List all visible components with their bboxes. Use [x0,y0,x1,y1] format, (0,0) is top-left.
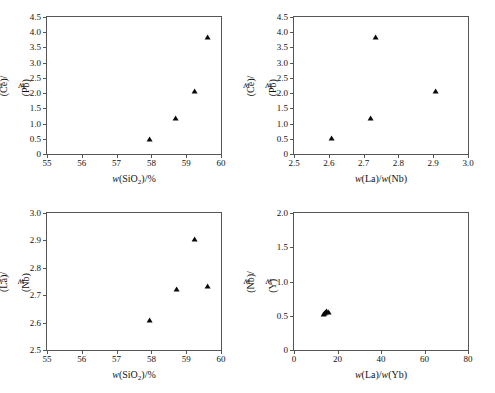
x-tick-label: 2.7 [358,159,369,168]
y-tick-label: 1.0 [277,119,288,128]
panel-top-right: 00.51.01.52.02.53.03.54.04.52.52.62.72.8… [247,0,495,196]
x-tick-label: 57 [112,159,121,168]
y-axis-label-bottom-right: w(Nb)/w(Y) [249,212,263,351]
y-tick-label: 3.5 [30,43,41,52]
y-tick-mark [290,93,294,94]
y-tick-mark [290,32,294,33]
x-tick-label: 55 [43,355,52,364]
y-tick-mark [43,323,47,324]
plot-area-bottom-left: 2.52.62.72.82.93.0555657585960 [46,212,222,351]
y-tick-label: 0.5 [30,134,41,143]
y-tick-mark [43,47,47,48]
y-tick-mark [43,63,47,64]
x-tick-label: 60 [217,355,226,364]
y-tick-label: 2.5 [277,73,288,82]
data-point-marker [328,135,334,140]
y-tick-mark [43,139,47,140]
y-tick-mark [43,240,47,241]
panel-bottom-right: 00.51.01.52.0020406080 w(La)/w(Yb) w(Nb)… [247,196,495,393]
data-point-marker [146,136,152,141]
x-tick-label: 58 [147,355,156,364]
y-tick-label: 0 [284,346,289,355]
panel-top-left: 00.51.01.52.02.53.03.54.04.5555657585960… [0,0,247,196]
y-tick-label: 0.5 [277,134,288,143]
y-tick-mark [290,17,294,18]
x-tick-label: 56 [77,159,86,168]
x-tick-label: 59 [182,159,191,168]
y-tick-label: 2.9 [30,236,41,245]
x-tick-label: 59 [182,355,191,364]
y-axis-label-bottom-left: w(La)/w(Nb) [2,212,16,351]
y-tick-label: 0 [284,150,289,159]
y-tick-mark [43,124,47,125]
y-tick-label: 2.0 [277,209,288,218]
x-axis-label-top-right: w(La)/w(Nb) [293,173,469,184]
y-tick-label: 4.5 [277,13,288,22]
plot-area-top-left: 00.51.01.52.02.53.03.54.04.5555657585960 [46,16,222,155]
x-tick-label: 2.6 [323,159,334,168]
y-tick-label: 3.0 [30,209,41,218]
data-point-marker [368,115,374,120]
y-tick-mark [43,268,47,269]
y-tick-label: 1.0 [30,119,41,128]
scatter-plot-figure: 00.51.01.52.02.53.03.54.04.5555657585960… [0,0,495,393]
y-tick-mark [290,139,294,140]
data-point-marker [325,309,331,314]
data-point-marker [372,34,378,39]
data-point-marker [204,283,210,288]
y-tick-label: 2.6 [30,318,41,327]
x-tick-label: 40 [377,355,386,364]
y-axis-label-top-right: w(Ce)/w(Pb) [249,16,263,155]
data-point-marker [173,287,179,292]
y-tick-label: 0.5 [277,311,288,320]
y-tick-mark [290,63,294,64]
x-axis-label-top-left: w(SiO2)/% [46,173,222,186]
data-point-marker [191,236,197,241]
panel-bottom-left: 2.52.62.72.82.93.0555657585960 w(SiO2)/%… [0,196,247,393]
y-tick-label: 2.0 [30,89,41,98]
x-tick-label: 0 [292,355,297,364]
x-tick-label: 2.5 [288,159,299,168]
y-axis-label-top-left: w(Ce)/w(Pb) [2,16,16,155]
x-tick-label: 80 [464,355,473,364]
x-tick-label: 60 [217,159,226,168]
y-tick-label: 1.5 [277,104,288,113]
x-tick-label: 57 [112,355,121,364]
y-tick-label: 4.0 [30,28,41,37]
y-tick-label: 0 [37,150,42,159]
data-point-marker [146,317,152,322]
y-tick-label: 1.0 [277,277,288,286]
y-tick-label: 2.8 [30,263,41,272]
x-tick-label: 55 [43,159,52,168]
y-tick-label: 4.0 [277,28,288,37]
y-tick-mark [290,47,294,48]
y-tick-mark [290,124,294,125]
data-point-marker [433,88,439,93]
y-tick-label: 2.5 [30,73,41,82]
x-tick-label: 60 [420,355,429,364]
y-tick-mark [290,78,294,79]
x-tick-label: 2.9 [428,159,439,168]
data-point-marker [191,88,197,93]
y-tick-mark [290,282,294,283]
y-tick-mark [290,108,294,109]
y-tick-label: 3.0 [277,58,288,67]
data-point-marker [173,115,179,120]
plot-area-bottom-right: 00.51.01.52.0020406080 [293,212,469,351]
y-tick-label: 3.0 [30,58,41,67]
x-tick-label: 58 [147,159,156,168]
x-axis-label-bottom-left: w(SiO2)/% [46,369,222,382]
y-tick-mark [43,108,47,109]
y-tick-mark [43,93,47,94]
y-tick-label: 2.7 [30,291,41,300]
x-axis-label-bottom-right: w(La)/w(Yb) [293,369,469,380]
y-tick-mark [290,247,294,248]
y-tick-label: 1.5 [277,243,288,252]
y-tick-label: 2.0 [277,89,288,98]
x-tick-label: 2.8 [393,159,404,168]
y-tick-label: 4.5 [30,13,41,22]
y-tick-label: 1.5 [30,104,41,113]
x-tick-label: 20 [333,355,342,364]
x-tick-label: 3.0 [462,159,473,168]
plot-area-top-right: 00.51.01.52.02.53.03.54.04.52.52.62.72.8… [293,16,469,155]
